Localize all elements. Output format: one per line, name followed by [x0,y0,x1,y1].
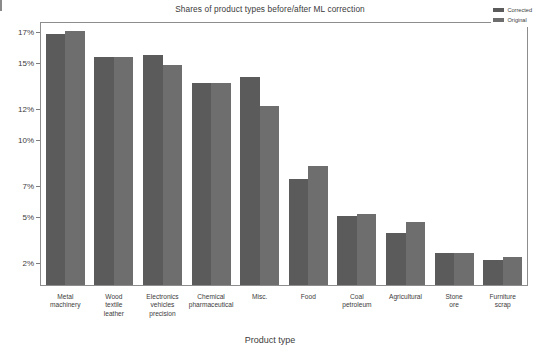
legend-label: Original [507,17,526,23]
plot-area [41,23,527,285]
x-tick-label: Food [284,293,333,301]
legend-swatch [493,18,504,22]
x-tick-label: Misc. [235,293,284,301]
bar [483,260,503,285]
x-tick-label-line: Furniture [478,293,527,301]
bar [240,77,260,285]
bar [289,179,309,285]
bar [337,216,357,285]
x-tick-label-line: Stone [430,293,479,301]
y-tick-mark [36,109,40,110]
x-tick-label-line: leather [90,310,139,318]
bar [357,214,377,285]
x-tick-label-line: vehicles [138,301,187,309]
x-tick-label-line: Metal [41,293,90,301]
y-tick-mark [36,186,40,187]
chart-legend: CorrectedOriginal [491,5,534,27]
bar [143,55,163,285]
x-tick-label: Metalmachinery [41,293,90,310]
bar [46,34,66,285]
legend-label: Corrected [507,7,532,13]
bar [435,253,455,285]
x-tick-label: Furniturescrap [478,293,527,310]
x-tick-label: Coalpetroleum [333,293,382,310]
bar [260,106,280,285]
x-axis-title: Product type [0,335,540,345]
x-tick-label-line: Electronics [138,293,187,301]
bar [211,83,231,285]
y-tick-label: 17% [0,28,34,37]
bar [503,257,523,285]
legend-swatch [493,8,504,12]
y-tick-label: 2% [0,259,34,268]
x-tick-label-line: Wood [90,293,139,301]
bar [454,253,474,285]
legend-item: Corrected [493,6,532,14]
x-tick-label-line: machinery [41,301,90,309]
x-tick-label-line: ore [430,301,479,309]
x-tick-label: Woodtextileleather [90,293,139,318]
x-tick-label-line: precision [138,310,187,318]
bar [192,83,212,285]
bar [114,57,134,285]
x-tick-label: Stoneore [430,293,479,310]
x-tick-label-line: Coal [333,293,382,301]
y-tick-label: 15% [0,59,34,68]
x-tick-label-line: Agricultural [381,293,430,301]
x-tick-label-line: pharmaceutical [187,301,236,309]
bar [386,233,406,285]
x-tick-label: Chemicalpharmaceutical [187,293,236,310]
y-tick-label: 12% [0,105,34,114]
legend-item: Original [493,16,532,24]
bar [163,65,183,285]
x-tick-label: Electronicsvehiclesprecision [138,293,187,318]
x-tick-label-line: Chemical [187,293,236,301]
x-tick-label-line: Food [284,293,333,301]
bar [308,166,328,285]
chart-figure: Shares of product types before/after ML … [0,0,540,359]
y-tick-label: 7% [0,182,34,191]
y-tick-mark [36,140,40,141]
bar [65,31,85,285]
x-tick-label-line: textile [90,301,139,309]
y-tick-mark [36,32,40,33]
x-tick-label-line: petroleum [333,301,382,309]
x-tick-label-line: scrap [478,301,527,309]
y-tick-label: 10% [0,136,34,145]
y-tick-mark [36,263,40,264]
y-tick-label: 5% [0,213,34,222]
chart-title: Shares of product types before/after ML … [0,4,540,14]
x-tick-label-line: Misc. [235,293,284,301]
y-tick-mark [36,63,40,64]
bar [406,222,426,285]
bar [94,57,114,285]
x-tick-label: Agricultural [381,293,430,301]
y-tick-mark [36,217,40,218]
